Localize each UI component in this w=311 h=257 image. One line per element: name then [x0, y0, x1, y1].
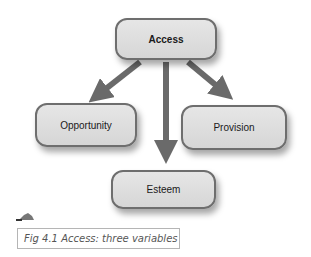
- node-esteem: Esteem: [111, 170, 216, 209]
- node-opportunity-label: Opportunity: [60, 120, 112, 131]
- node-opportunity: Opportunity: [35, 103, 137, 147]
- figure-caption: Fig 4.1 Access: three variables: [17, 228, 180, 249]
- caption-text: Fig 4.1 Access: three variables: [24, 233, 178, 244]
- node-access: Access: [115, 18, 217, 60]
- arrow-access-opportunity: [98, 62, 140, 95]
- node-provision-label: Provision: [213, 122, 254, 133]
- arrow-access-provision: [188, 62, 224, 92]
- node-access-label: Access: [148, 34, 183, 45]
- node-provision: Provision: [181, 105, 287, 150]
- figure-marker-icon: [16, 212, 34, 221]
- node-esteem-label: Esteem: [147, 184, 181, 195]
